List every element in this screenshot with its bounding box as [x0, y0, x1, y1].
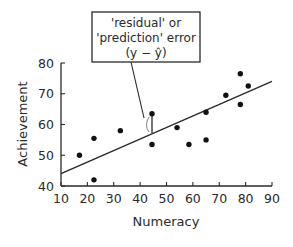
scatter-chart: 1020304050607080904050607080 'residual' … [0, 0, 293, 247]
data-point [91, 136, 96, 141]
data-point [91, 177, 96, 182]
annotation-pointer [131, 62, 144, 118]
data-point [149, 111, 154, 116]
residual-marker [146, 114, 152, 133]
regression-line [61, 81, 272, 173]
fit-line [61, 81, 272, 173]
x-tick-label: 10 [53, 191, 69, 206]
data-point [203, 137, 208, 142]
data-point [118, 128, 123, 133]
data-point [203, 110, 208, 115]
y-tick-label: 70 [38, 86, 54, 101]
x-tick-label: 50 [159, 191, 175, 206]
y-tick-label: 80 [38, 56, 54, 71]
x-tick-label: 40 [132, 191, 148, 206]
data-point [186, 142, 191, 147]
data-points [77, 71, 251, 182]
data-point [77, 153, 82, 158]
x-axis-title: Numeracy [133, 214, 200, 229]
annotation-line-3: (y − ŷ) [125, 46, 166, 60]
annotation-line-2: 'prediction' error [96, 31, 196, 45]
y-axis-title: Achievement [15, 81, 30, 166]
data-point [223, 93, 228, 98]
x-tick-label: 60 [185, 191, 201, 206]
axes [61, 63, 272, 186]
annotation-callout: 'residual' or 'prediction' error (y − ŷ) [92, 12, 200, 118]
residual-bracket [146, 117, 149, 132]
x-tick-label: 80 [238, 191, 254, 206]
x-tick-label: 20 [79, 191, 95, 206]
y-tick-label: 50 [38, 148, 54, 163]
data-point [246, 83, 251, 88]
x-tick-label: 90 [264, 191, 280, 206]
x-tick-label: 30 [106, 191, 122, 206]
data-point [238, 71, 243, 76]
y-tick-label: 60 [38, 117, 54, 132]
data-point [238, 102, 243, 107]
x-tick-label: 70 [211, 191, 227, 206]
annotation-line-1: 'residual' or [111, 16, 181, 30]
data-point [149, 142, 154, 147]
y-tick-label: 40 [38, 179, 54, 194]
data-point [174, 125, 179, 130]
